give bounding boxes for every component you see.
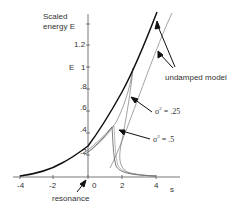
y-axis-e-label: E xyxy=(69,63,74,72)
x-tick-label: 4 xyxy=(154,181,159,190)
x-tick-label: 0 xyxy=(92,181,97,190)
y-tick-label: .4 xyxy=(80,125,87,134)
y-tick-label: 1 xyxy=(81,63,86,72)
sigma-025-label: σ2 = .25 xyxy=(155,106,180,116)
resonance-arrow xyxy=(77,180,86,192)
resonance-label: resonance xyxy=(52,194,90,203)
y-axis-label-line1: Scaled xyxy=(43,12,67,21)
sigma-05-arrow xyxy=(119,130,150,139)
x-tick-label: -2 xyxy=(49,181,57,190)
sigma-025-curve xyxy=(84,68,156,176)
x-tick-label: 2 xyxy=(120,181,125,190)
y-tick-label: 1.2 xyxy=(74,40,86,49)
undamped-model-label: undamped model xyxy=(165,73,227,82)
x-tick-label: -4 xyxy=(17,181,25,190)
y-tick-label: .8 xyxy=(80,82,87,91)
energy-chart: -4 -2 0 2 4 .2 .4 .6 .8 1 1.2 Scaled ene… xyxy=(0,0,241,205)
x-axis-label: s xyxy=(170,185,174,194)
y-axis-label-line2: energy E xyxy=(43,22,75,31)
y-tick-label: .6 xyxy=(80,103,87,112)
undamped-upper-branch xyxy=(110,13,172,168)
sigma-05-label: σ2 = .5 xyxy=(153,134,174,144)
